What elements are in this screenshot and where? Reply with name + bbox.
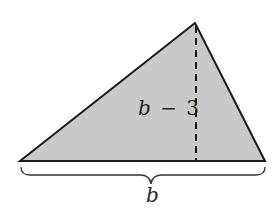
height-label: b − 3 [138, 96, 199, 120]
triangle [20, 23, 265, 161]
base-label: b [146, 183, 159, 207]
base-brace [21, 167, 265, 184]
triangle-diagram: b − 3 b [0, 0, 277, 213]
